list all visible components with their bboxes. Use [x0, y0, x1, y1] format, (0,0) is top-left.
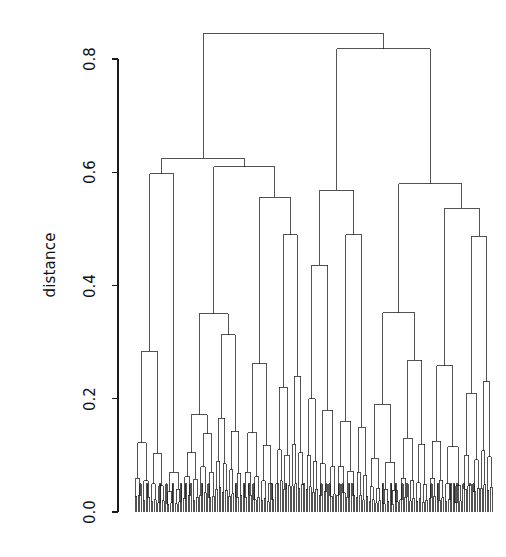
y-tick-label-2: 0.4: [81, 264, 99, 308]
dendrogram-figure: distance 0.8 0.6 0.4 0.2 0.0: [0, 0, 506, 557]
dendrogram-canvas: [0, 0, 506, 557]
y-tick-label-3: 0.2: [81, 377, 99, 421]
y-tick-label-0: 0.8: [81, 37, 99, 81]
y-axis-title: distance: [30, 215, 70, 315]
y-tick-label-4: 0.0: [81, 490, 99, 534]
y-tick-label-1: 0.6: [81, 150, 99, 194]
